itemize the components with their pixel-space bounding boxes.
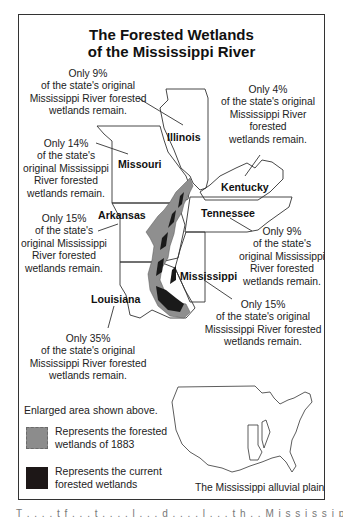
note-tennessee: Only 9%of the state's original Mississip… [232, 226, 332, 288]
swatch-1883 [26, 427, 48, 449]
leader-louisiana [108, 306, 114, 328]
legend-caption: Enlarged area shown above. [24, 404, 158, 416]
note-missouri: Only 14%of the state's original Mississi… [22, 138, 110, 200]
cutoff-text: T . . . . t f . . . t . . . . l . . . d … [16, 508, 343, 517]
inset-us-map [172, 386, 312, 472]
leader-mississippi [204, 280, 232, 299]
legend-item-current: Represents the current forested wetlands [26, 465, 162, 491]
kentucky-outline [200, 160, 283, 200]
state-label-tennessee: Tennessee [201, 207, 255, 219]
state-label-mississippi: Mississippi [180, 270, 237, 282]
inset-caption: The Mississippi alluvial plain [195, 482, 324, 493]
note-illinois: Only 9%of the state's original Mississip… [24, 68, 152, 118]
state-label-missouri: Missouri [118, 158, 162, 170]
state-label-illinois: Illinois [167, 131, 201, 143]
inset-mississippi-states [248, 420, 270, 460]
note-kentucky: Only 4%of the state's original Mississip… [218, 84, 318, 146]
us-outline [172, 386, 312, 472]
swatch-current [26, 467, 48, 489]
note-louisiana: Only 35%of the state's original Mississi… [24, 333, 152, 383]
legend-item-1883: Represents the forested wetlands of 1883 [26, 425, 167, 451]
note-mississippi: Only 15%of the state's original Mississi… [200, 299, 326, 349]
mississippi-outline [175, 232, 205, 302]
state-label-kentucky: Kentucky [221, 181, 269, 193]
state-label-louisiana: Louisiana [91, 293, 140, 305]
note-arkansas: Only 15%of the state's original Mississi… [20, 213, 108, 275]
